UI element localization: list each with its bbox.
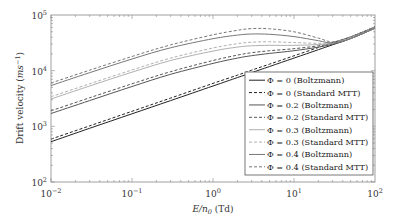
legend-label: Φ = 0.3 (Boltzmann) (267, 125, 352, 135)
legend-entry: Φ = 0.4 (Standard MTT) (249, 162, 368, 172)
y-axis-tick-labels: 102103104105 (31, 9, 47, 188)
legend-label: Φ = 0 (Standard MTT) (267, 88, 360, 98)
x-tick-label: 102 (367, 187, 383, 199)
legend-label: Φ = 0.3 (Standard MTT) (267, 137, 368, 147)
y-axis-title-superscript: −1 (14, 55, 22, 65)
y-tick-label: 102 (31, 176, 47, 188)
x-tick-label: 100 (205, 187, 221, 199)
y-tick-label: 105 (31, 9, 47, 21)
y-axis-title-main: Drift velocity ( (15, 78, 25, 144)
y-tick-label: 104 (31, 65, 47, 77)
x-axis-tick-labels: 10−210−1100101102 (40, 187, 382, 199)
drift-velocity-chart: 10−210−1100101102 102103104105 E/n0 (Td)… (0, 0, 399, 223)
legend-label: Φ = 0.4 (Standard MTT) (267, 162, 368, 172)
legend-entry: Φ = 0.3 (Standard MTT) (249, 137, 368, 147)
legend-label: Φ = 0.2 (Boltzmann) (267, 100, 352, 110)
legend-label: Φ = 0 (Boltzmann) (267, 75, 344, 85)
y-axis-title: Drift velocity (ms−1) (14, 52, 26, 144)
x-axis-title-unit: (Td) (212, 204, 234, 214)
x-tick-label: 10−2 (40, 187, 61, 199)
y-axis-title-unit: ms (15, 65, 25, 79)
x-tick-label: 101 (286, 187, 302, 199)
x-axis-title: E/n0 (Td) (191, 204, 233, 216)
legend-label: Φ = 0.4 (Boltzmann) (267, 149, 352, 159)
x-axis-title-main: E/n (191, 204, 208, 214)
legend-label: Φ = 0.2 (Standard MTT) (267, 112, 368, 122)
x-tick-label: 10−1 (121, 187, 142, 199)
y-tick-label: 103 (31, 120, 47, 132)
y-axis-title-close: ) (15, 52, 25, 56)
legend: Φ = 0 (Boltzmann)Φ = 0 (Standard MTT)Φ =… (245, 72, 373, 175)
legend-entry: Φ = 0.2 (Standard MTT) (249, 112, 368, 122)
